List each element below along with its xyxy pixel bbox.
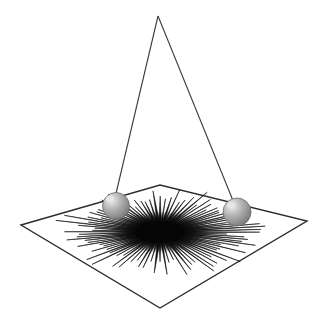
left-bob — [103, 193, 130, 220]
scene-canvas — [0, 0, 329, 332]
right-bob — [223, 198, 251, 226]
pendulum-strings — [114, 16, 236, 208]
left-bob-highlight — [106, 196, 114, 202]
right-bob-highlight — [227, 202, 235, 209]
right-bob-body — [223, 198, 251, 226]
scene-svg — [0, 0, 329, 332]
burst-core — [134, 221, 186, 243]
left-string-line — [114, 16, 158, 202]
right-string-line — [158, 16, 236, 208]
left-bob-body — [103, 193, 130, 220]
